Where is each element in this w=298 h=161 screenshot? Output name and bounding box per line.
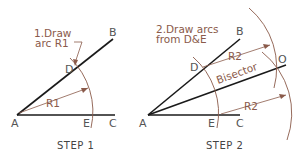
point-label-O: O	[278, 53, 287, 66]
step1-caption: STEP 1	[57, 140, 94, 151]
label-R2-lower: R2	[244, 100, 258, 112]
point-label-A: A	[11, 117, 19, 130]
arrowhead-R2-upper	[263, 44, 270, 49]
angle-bisection-diagram: 1.Draw arc R1 R1 A B C D E STEP 1 2.Draw…	[0, 0, 298, 161]
arc-from-D	[249, 8, 277, 88]
step2-caption: STEP 2	[206, 140, 243, 151]
bisector-line	[148, 65, 286, 115]
point-label-E: E	[83, 117, 90, 130]
ray-AB	[17, 39, 113, 115]
point-label-E-2: E	[208, 117, 215, 130]
point-label-A-2: A	[139, 117, 147, 130]
arrowhead-R1	[81, 88, 88, 93]
label-R1: R1	[46, 97, 60, 109]
point-label-D: D	[65, 63, 73, 76]
step1-panel: 1.Draw arc R1 R1 A B C D E STEP 1	[11, 26, 117, 151]
step2-panel: 2.Draw arcs from D&E R2 R2 Bisector A B …	[139, 8, 292, 151]
label-R2-upper: R2	[228, 50, 242, 62]
point-label-B: B	[109, 26, 117, 39]
point-label-C-2: C	[236, 117, 244, 130]
note2-line2: from D&E	[156, 33, 207, 45]
note1-line2: arc R1	[35, 37, 69, 49]
point-label-C: C	[109, 117, 117, 130]
point-label-D-2: D	[190, 61, 198, 74]
point-label-B-2: B	[236, 25, 244, 38]
arrowhead-R2-lower	[279, 94, 286, 99]
